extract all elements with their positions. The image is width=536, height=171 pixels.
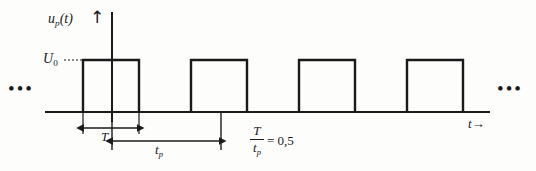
y-axis-arrow-icon: ↑ (90, 9, 104, 26)
period-label: tp (155, 143, 163, 158)
x-axis-label: t→ (468, 117, 485, 130)
y-axis-label-symbol: u (48, 11, 55, 26)
pulse-4 (407, 60, 463, 112)
pulse-2 (191, 60, 247, 112)
amplitude-label: U0 (43, 52, 58, 68)
pulse-3 (299, 60, 355, 112)
pulse-train-figure: ↑ up(t) U0 t→ T tp T tp = 0,5 ••• ••• (0, 0, 536, 171)
duty-cycle-numerator: T (250, 124, 263, 139)
period-label-subscript: p (159, 149, 163, 159)
duty-cycle-fraction: T tp (250, 124, 264, 156)
ellipsis-left: ••• (8, 78, 34, 100)
pulse-width-label: T (101, 130, 108, 143)
duty-cycle-annotation: T tp = 0,5 (250, 124, 294, 156)
duty-cycle-denominator: tp (250, 140, 264, 157)
ellipsis-right: ••• (497, 78, 523, 100)
x-axis-arrow-icon: → (472, 116, 485, 131)
amplitude-label-subscript: 0 (53, 58, 58, 68)
duty-cycle-denominator-subscript: p (257, 146, 261, 156)
duty-cycle-value: = 0,5 (267, 134, 294, 147)
y-axis-label-suffix: (t) (60, 11, 73, 26)
amplitude-label-symbol: U (43, 51, 53, 66)
y-axis-label: up(t) (48, 12, 73, 28)
